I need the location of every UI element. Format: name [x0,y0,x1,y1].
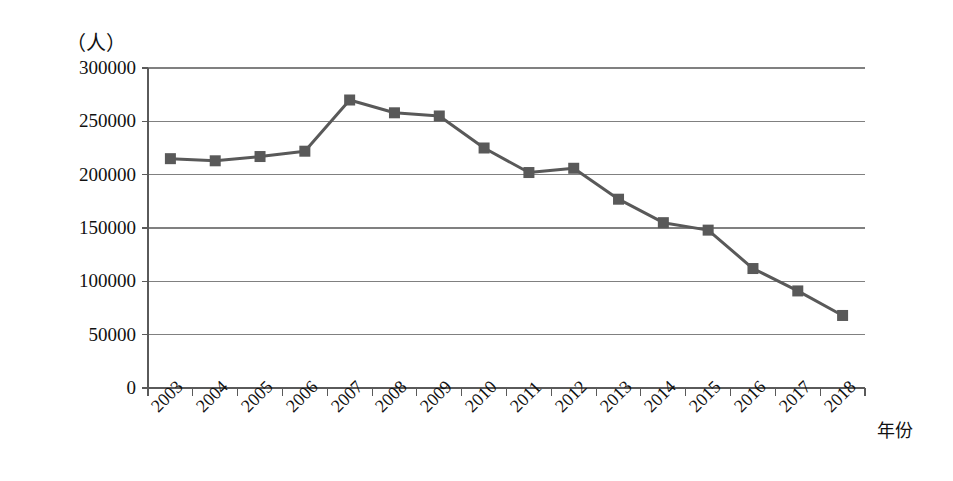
line-chart: （人） 050000100000150000200000250000300000… [0,0,953,481]
gridlines [148,68,865,335]
y-axis-ticks [142,68,148,388]
series-markers [165,95,848,321]
series-line [170,100,842,315]
x-axis-title: 年份 [877,416,913,442]
